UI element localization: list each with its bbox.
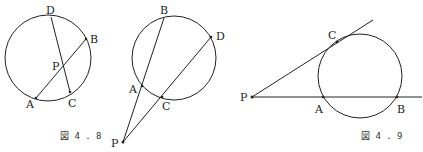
caption-4-9: 図 4 . 9 (361, 131, 403, 141)
label-p: P (240, 91, 248, 104)
label-a: A (314, 103, 324, 116)
label-a: A (128, 83, 138, 96)
figure-4-9-tangent-secant: C P A B (240, 20, 422, 118)
figure-4-8-intersecting-chords: D B P A C (5, 4, 98, 111)
caption-4-8: 図 4 . 8 (60, 131, 102, 141)
label-b: B (160, 4, 168, 17)
tangent-pc (252, 20, 373, 97)
figure-4-8-secants: B D A C P (111, 4, 225, 150)
secant-pb (123, 18, 164, 142)
chord-dc (51, 17, 70, 92)
circle (132, 16, 216, 100)
label-c: C (162, 100, 170, 113)
circle (5, 15, 91, 101)
label-c: C (68, 97, 76, 110)
geometry-figures: D B P A C B D A C P 図 4 . 8 C P A B 図 4 … (0, 0, 423, 152)
label-b: B (397, 103, 405, 116)
label-b: B (90, 33, 98, 46)
chord-ab (36, 39, 86, 98)
label-a: A (25, 98, 35, 111)
label-p: P (52, 60, 60, 73)
label-c: C (328, 29, 336, 42)
label-d: D (46, 4, 55, 17)
label-d: D (216, 30, 225, 43)
label-p: P (111, 137, 119, 150)
